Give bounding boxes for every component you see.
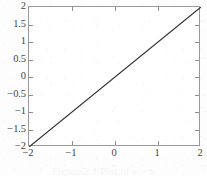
y-tick-label: 1.5 [13, 19, 26, 29]
y-tick-label: −1.5 [7, 124, 26, 134]
y-tick-label: 0.5 [13, 54, 26, 64]
y-tick-label: 0 [21, 71, 26, 81]
x-tick-label: 2 [190, 148, 207, 158]
y-tick-label: −0.5 [7, 89, 26, 99]
x-tick-label: 0 [104, 148, 124, 158]
y-tick-label: −1 [15, 106, 26, 116]
data-line-svg [29, 7, 201, 147]
series-line-y-equals-x [29, 7, 201, 147]
y-tick-label: 1 [21, 36, 26, 46]
y-tick-label: 2 [21, 1, 26, 11]
x-tick-label: −1 [61, 148, 81, 158]
x-tick-label: −2 [18, 148, 38, 158]
figure-caption: Figure 2.1 Plot of y = x [0, 166, 207, 176]
figure-container: 2 1.5 1 0.5 0 −0.5 −1 −1.5 −2 −2 −1 0 1 … [0, 0, 207, 176]
x-tick-label: 1 [147, 148, 167, 158]
plot-area [28, 6, 200, 146]
